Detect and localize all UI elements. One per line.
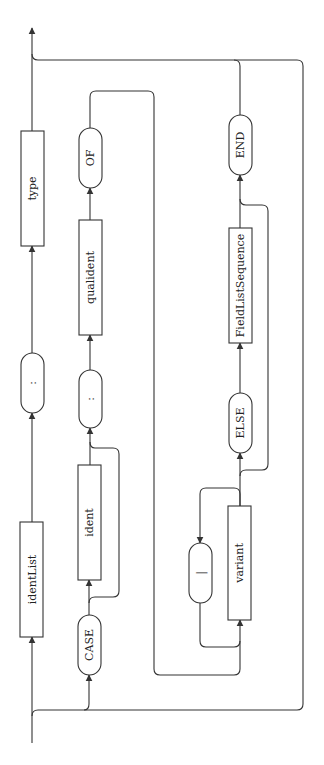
- syntax-diagram: identList : type CASE ident : qu: [0, 0, 324, 765]
- nodes: identList : type CASE ident : qu: [20, 115, 252, 675]
- bottom-branch: [32, 54, 303, 716]
- end-to-exit: [234, 60, 240, 115]
- node-colon-1: :: [21, 353, 44, 413]
- node-bar: |: [189, 543, 212, 603]
- node-label: ELSE: [234, 408, 247, 439]
- of-to-variant: [90, 91, 240, 675]
- node-variant: variant: [228, 506, 251, 620]
- node-label: OF: [84, 149, 97, 166]
- node-label: |: [194, 571, 208, 575]
- case-branch: [84, 675, 89, 710]
- node-qualident: qualident: [79, 220, 102, 335]
- node-label: FieldListSequence: [234, 234, 247, 338]
- node-type: type: [21, 131, 44, 246]
- node-else: ELSE: [229, 393, 252, 453]
- node-label: qualident: [84, 251, 97, 304]
- node-ident: ident: [78, 465, 101, 580]
- node-case: CASE: [78, 615, 101, 675]
- node-label: variant: [233, 543, 246, 584]
- node-of: OF: [79, 128, 102, 188]
- node-fieldlistsequence: FieldListSequence: [229, 228, 252, 343]
- node-label: :: [26, 381, 39, 385]
- node-label: CASE: [83, 629, 96, 661]
- wires: [32, 28, 303, 743]
- node-label: :: [84, 397, 97, 401]
- node-label: END: [234, 132, 247, 159]
- node-label: ident: [83, 508, 96, 537]
- node-label: identList: [26, 554, 39, 604]
- node-colon-2: :: [79, 370, 102, 428]
- node-identlist: identList: [20, 522, 43, 637]
- node-label: type: [26, 176, 39, 200]
- node-end: END: [229, 115, 252, 175]
